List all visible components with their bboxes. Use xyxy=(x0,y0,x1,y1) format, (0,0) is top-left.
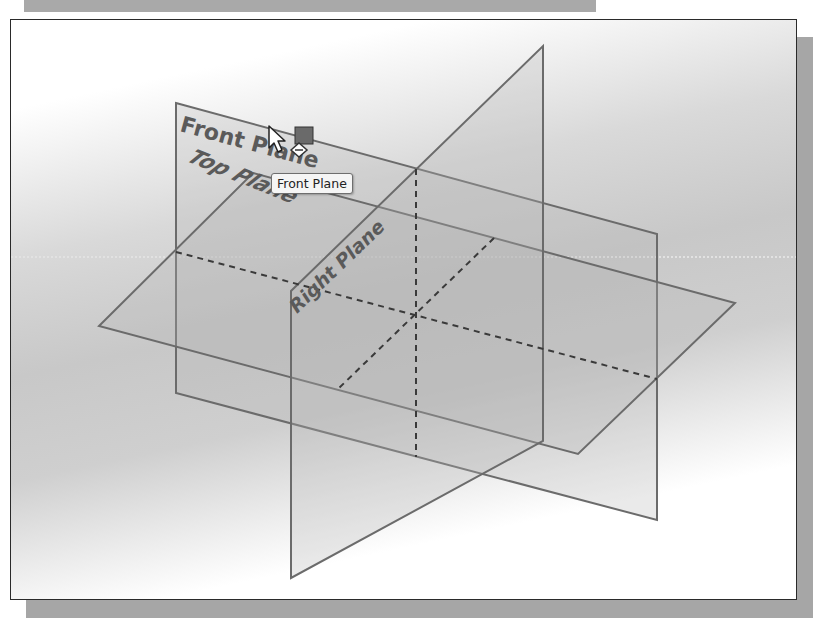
tooltip: Front Plane xyxy=(271,173,353,194)
selection-square-icon xyxy=(295,127,313,144)
tooltip-text: Front Plane xyxy=(277,176,347,191)
graphics-viewport[interactable]: Front Plane Top Plane Right Plane Front … xyxy=(10,19,797,600)
reference-planes-canvas[interactable]: Front Plane Top Plane Right Plane xyxy=(11,20,796,599)
top-shadow-strip xyxy=(24,0,596,12)
